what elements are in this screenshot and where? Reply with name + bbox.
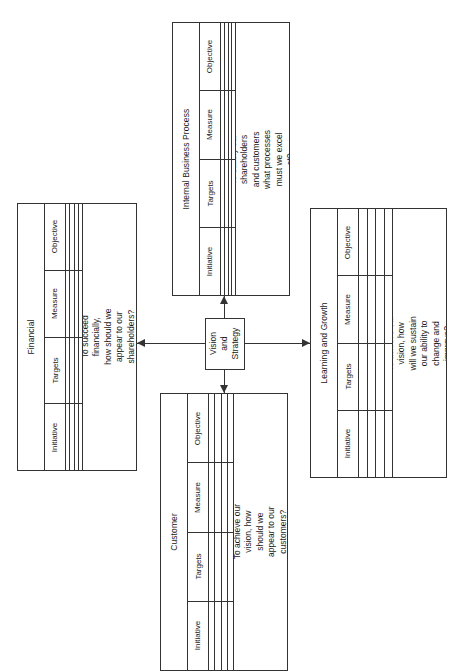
perspective-internal-business-process[interactable]: Internal Business Process Objective (172, 22, 290, 296)
perspective-financial-inner: Financial Objective Me (18, 204, 136, 470)
header-cell-measure: Measure (338, 276, 359, 342)
perspective-customer[interactable]: Customer Objective Mea (160, 393, 288, 671)
header-cell-measure: Measure (188, 463, 209, 531)
data-cell[interactable] (385, 411, 393, 477)
header-label: Measure (344, 294, 353, 325)
data-cell[interactable] (385, 209, 393, 275)
arrowhead-center-to-customer (220, 385, 228, 393)
perspective-financial[interactable]: Financial Objective Me (17, 203, 137, 471)
data-cell[interactable] (376, 411, 385, 477)
question-text: To achieve ourvision, howwill we sustain… (392, 315, 446, 370)
header-label: Objective (194, 411, 203, 444)
question-text: To achieve ourvision, howshould weappear… (233, 504, 287, 559)
perspective-financial-title-label: Financial (26, 320, 36, 355)
header-cell-objective: Objective (338, 209, 359, 275)
perspective-internal-business-process-title: Internal Business Process (173, 23, 199, 295)
table-row: Objective (45, 204, 82, 271)
perspective-learning-and-growth-grid: Objective Measure (338, 209, 392, 477)
table-row: Initiative (200, 228, 235, 295)
table-row: Measure (188, 463, 233, 532)
perspective-learning-and-growth-question: To achieve ourvision, howwill we sustain… (392, 209, 446, 477)
vision-line-2: and (219, 328, 230, 360)
header-cell-initiative: Initiative (188, 602, 209, 670)
connector-line-center-to-learning-and-growth (245, 343, 310, 344)
table-row: Targets (200, 160, 235, 228)
question-line-4: what processes (263, 129, 274, 188)
data-cell[interactable] (385, 276, 393, 342)
data-cell[interactable] (385, 344, 393, 410)
header-label: Measure (51, 288, 60, 319)
perspective-financial-grid: Objective Measure (45, 204, 82, 470)
question-line-4: appear to our (115, 309, 126, 365)
data-cell[interactable] (376, 276, 385, 342)
perspective-customer-title-label: Customer (169, 513, 179, 551)
perspective-learning-and-growth-title-label: Learning and Growth (319, 302, 329, 383)
question-text: To satisfy ourshareholdersand customersw… (235, 129, 289, 188)
perspective-customer-body: Objective Measure (187, 394, 287, 670)
table-row: Objective (188, 394, 233, 463)
table-row: Targets (45, 338, 82, 405)
table-row: Measure (200, 91, 235, 159)
header-label: Initiative (344, 429, 353, 458)
question-line-5: must we excel (274, 129, 285, 188)
header-cell-objective: Objective (45, 204, 66, 270)
table-row: Measure (338, 276, 392, 343)
data-cell[interactable] (368, 411, 377, 477)
question-line-3: how should we (104, 309, 115, 365)
header-label: Targets (344, 364, 353, 390)
table-row: Initiative (188, 602, 233, 670)
arrowhead-center-to-financial (137, 339, 145, 347)
question-line-3: and customers (251, 129, 262, 188)
question-line-3: should we (255, 504, 266, 559)
data-cell[interactable] (359, 411, 368, 477)
header-cell-measure: Measure (45, 271, 66, 337)
question-line-2: shareholders (240, 129, 251, 188)
header-cell-measure: Measure (200, 91, 221, 158)
data-cell[interactable] (359, 276, 368, 342)
data-cell[interactable] (376, 344, 385, 410)
perspective-learning-and-growth-body: Objective Measure (337, 209, 446, 477)
header-label: Initiative (194, 621, 203, 650)
question-line-1: To succeed (82, 309, 92, 365)
question-line-5: change and (431, 315, 442, 370)
header-label: Objective (344, 225, 353, 258)
header-cell-initiative: Initiative (338, 411, 359, 477)
question-text: To succeedfinancially,how should weappea… (82, 309, 136, 365)
header-label: Initiative (206, 247, 215, 276)
data-cell[interactable] (368, 209, 377, 275)
data-cell[interactable] (359, 209, 368, 275)
question-line-2: financially, (92, 309, 103, 365)
perspective-learning-and-growth[interactable]: Learning and Growth Objective (310, 208, 447, 478)
vision-line-1: Vision (208, 328, 219, 360)
perspective-financial-title: Financial (18, 204, 44, 470)
data-cell[interactable] (368, 344, 377, 410)
arrowhead-center-to-internal-business-process (220, 296, 228, 304)
data-cell[interactable] (376, 209, 385, 275)
question-line-6: at? (285, 129, 289, 188)
arrowhead-center-to-learning-and-growth (302, 339, 310, 347)
table-row: Objective (200, 23, 235, 91)
data-cell[interactable] (359, 344, 368, 410)
table-row: Measure (45, 271, 82, 338)
perspective-customer-question: To achieve ourvision, howshould weappear… (233, 394, 287, 670)
question-line-4: appear to our (266, 504, 277, 559)
perspective-customer-grid: Objective Measure (188, 394, 233, 670)
question-line-5: customers? (278, 504, 287, 559)
perspective-internal-business-process-grid: Objective Measure (200, 23, 235, 295)
question-line-2: vision, how (397, 315, 408, 370)
vision-and-strategy-box[interactable]: Vision and Strategy (205, 318, 245, 370)
header-label: Objective (51, 220, 60, 253)
question-line-5: shareholders? (127, 309, 136, 365)
perspective-internal-business-process-body: Objective Measure (199, 23, 289, 295)
header-label: Measure (194, 482, 203, 513)
question-line-2: vision, how (243, 504, 254, 559)
perspective-financial-question: To succeedfinancially,how should weappea… (82, 204, 136, 470)
table-row: Initiative (338, 411, 392, 477)
perspective-customer-title: Customer (161, 394, 187, 670)
header-label: Measure (206, 109, 215, 140)
perspective-financial-body: Objective Measure (44, 204, 136, 470)
data-cell[interactable] (368, 276, 377, 342)
question-line-6: improve? (442, 315, 446, 370)
header-cell-targets: Targets (338, 344, 359, 410)
